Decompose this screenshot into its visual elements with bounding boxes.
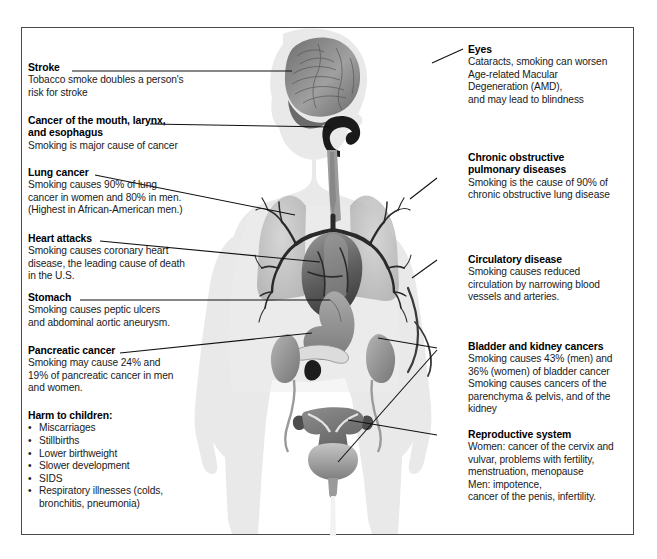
label-pancreas-heading: Pancreatic cancer xyxy=(28,345,173,357)
label-lung-line-2: cancer in women and 80% in men. xyxy=(28,192,183,204)
label-lung-cancer: Lung cancer Smoking causes 90% of lung c… xyxy=(28,167,183,217)
harm-to-children-list: Miscarriages Stillbirths Lower birthweig… xyxy=(28,422,163,510)
list-item: Lower birthweight xyxy=(28,448,163,461)
harm-to-children-heading: Harm to children: xyxy=(28,410,163,422)
label-reproductive-line-2: vulvar, problems with fertility, xyxy=(468,454,614,466)
label-circulatory-disease: Circulatory disease Smoking causes reduc… xyxy=(468,254,600,304)
label-heart-attacks: Heart attacks Smoking causes coronary he… xyxy=(28,233,185,283)
label-eyes-line-3: Degeneration (AMD), xyxy=(468,81,607,93)
infographic-stage: Stroke Tobacco smoke doubles a person's … xyxy=(0,0,657,559)
bladder xyxy=(308,443,358,536)
label-eyes-line-1: Cataracts, smoking can worsen xyxy=(468,56,607,68)
list-item: Miscarriages xyxy=(28,422,163,435)
label-heart-line-2: disease, the leading cause of death xyxy=(28,258,185,270)
label-stroke-line-2: risk for stroke xyxy=(28,87,184,99)
label-circulatory-line-1: Smoking causes reduced xyxy=(468,266,600,278)
label-pancreas-line-2: 19% of pancreatic cancer in men xyxy=(28,370,173,382)
label-reproductive-line-4: Men: impotence, xyxy=(468,479,614,491)
label-heart-line-3: in the U.S. xyxy=(28,270,185,282)
label-bladder-kidney-line-2: 36% (women) of bladder cancer xyxy=(468,366,612,378)
label-lung-heading: Lung cancer xyxy=(28,167,183,179)
label-eyes-line-4: and may lead to blindness xyxy=(468,94,607,106)
label-copd-line-1: Smoking is the cause of 90% of xyxy=(468,177,610,189)
label-copd-heading2: pulmonary diseases xyxy=(468,164,610,176)
label-pancreas-line-1: Smoking may cause 24% and xyxy=(28,357,173,369)
label-reproductive-line-5: cancer of the penis, infertility. xyxy=(468,491,614,503)
label-lung-line-1: Smoking causes 90% of lung xyxy=(28,179,183,191)
list-item: Stillbirths xyxy=(28,435,163,448)
leader-eyes xyxy=(432,49,463,63)
label-eyes: Eyes Cataracts, smoking can worsen Age-r… xyxy=(468,44,607,106)
label-stomach-line-1: Smoking causes peptic ulcers xyxy=(28,304,170,316)
label-copd-line-2: chronic obstructive lung disease xyxy=(468,189,610,201)
label-eyes-line-2: Age-related Macular xyxy=(468,69,607,81)
label-stroke: Stroke Tobacco smoke doubles a person's … xyxy=(28,62,184,99)
label-lung-line-3: (Highest in African-American men.) xyxy=(28,204,183,216)
label-reproductive-heading: Reproductive system xyxy=(468,429,614,441)
label-circulatory-heading: Circulatory disease xyxy=(468,254,600,266)
list-item: Slower development xyxy=(28,460,163,473)
label-reproductive-line-1: Women: cancer of the cervix and xyxy=(468,441,614,453)
label-copd: Chronic obstructive pulmonary diseases S… xyxy=(468,152,610,202)
label-reproductive-line-3: menstruation, menopause xyxy=(468,466,614,478)
label-pancreas-line-3: and women. xyxy=(28,382,173,394)
label-circulatory-line-2: circulation by narrowing blood xyxy=(468,279,600,291)
label-stroke-heading: Stroke xyxy=(28,62,184,74)
label-copd-heading: Chronic obstructive xyxy=(468,152,610,164)
label-bladder-kidney-line-3: Smoking causes cancers of the xyxy=(468,378,612,390)
label-circulatory-line-3: vessels and arteries. xyxy=(468,291,600,303)
label-harm-to-children: Harm to children: Miscarriages Stillbirt… xyxy=(28,410,163,511)
label-bladder-kidney-heading: Bladder and kidney cancers xyxy=(468,341,612,353)
label-mouth-heading: Cancer of the mouth, larynx, xyxy=(28,115,178,127)
label-heart-line-1: Smoking causes coronary heart xyxy=(28,245,185,257)
label-bladder-and-kidney-cancers: Bladder and kidney cancers Smoking cause… xyxy=(468,341,612,415)
label-stomach: Stomach Smoking causes peptic ulcers and… xyxy=(28,292,170,329)
label-stroke-line-1: Tobacco smoke doubles a person's xyxy=(28,74,184,86)
list-item: SIDS xyxy=(28,473,163,486)
list-item: Respiratory illnesses (colds, xyxy=(28,485,163,498)
label-pancreatic-cancer: Pancreatic cancer Smoking may cause 24% … xyxy=(28,345,173,395)
label-bladder-kidney-line-4: parenchyma & pelvis, and of the xyxy=(468,391,612,403)
leader-copd xyxy=(410,178,437,199)
list-item-continuation: bronchitis, pneumonia) xyxy=(28,498,163,511)
label-stomach-line-2: and abdominal aortic aneurysm. xyxy=(28,317,170,329)
label-eyes-heading: Eyes xyxy=(468,44,607,56)
label-bladder-kidney-line-5: kidney xyxy=(468,403,612,415)
label-mouth-line-1: Smoking is major cause of cancer xyxy=(28,140,178,152)
label-stomach-heading: Stomach xyxy=(28,292,170,304)
label-mouth-heading2: and esophagus xyxy=(28,127,178,139)
label-heart-heading: Heart attacks xyxy=(28,233,185,245)
label-bladder-kidney-line-1: Smoking causes 43% (men) and xyxy=(468,353,612,365)
label-cancer-mouth-larynx-esophagus: Cancer of the mouth, larynx, and esophag… xyxy=(28,115,178,152)
label-reproductive-system: Reproductive system Women: cancer of the… xyxy=(468,429,614,503)
leader-circulatory xyxy=(412,260,437,278)
